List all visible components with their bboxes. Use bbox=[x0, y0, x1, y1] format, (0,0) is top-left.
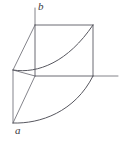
upper-curve-path bbox=[13, 25, 93, 71]
ridge-edge-to-b-line bbox=[13, 25, 35, 70]
vertex-label-b: b bbox=[38, 1, 44, 12]
vertex-label-a: a bbox=[15, 125, 21, 136]
left-face-diagonal-edge-line bbox=[13, 76, 35, 123]
lower-curve-path bbox=[13, 76, 93, 123]
geometry-drawing bbox=[0, 0, 121, 141]
figure-canvas: b a bbox=[0, 0, 121, 141]
